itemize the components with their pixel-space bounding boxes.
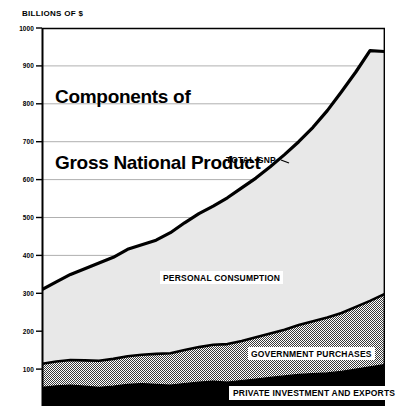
y-tick-label-400: 400: [8, 252, 34, 259]
y-tick-label-700: 700: [8, 138, 34, 145]
y-tick-label-600: 600: [8, 176, 34, 183]
y-tick-label-900: 900: [8, 62, 34, 69]
y-tick-label-200: 200: [8, 328, 34, 335]
y-tick-label-1000: 1000: [8, 25, 34, 32]
y-tick-label-500: 500: [8, 214, 34, 221]
annotation-government-purchases: GOVERNMENT PURCHASES: [248, 347, 375, 360]
annotation-total-gnp: TOTAL GNP: [226, 155, 276, 165]
y-tick-label-100: 100: [8, 366, 34, 373]
y-tick-label-800: 800: [8, 100, 34, 107]
annotation-personal-consumption: PERSONAL CONSUMPTION: [160, 271, 283, 284]
y-axis-unit-label: BILLIONS OF $: [22, 9, 83, 18]
chart-title-line1: Components of: [55, 86, 261, 108]
chart-title: Components of Gross National Product: [55, 42, 261, 218]
annotation-private-investment: PRIVATE INVESTMENT AND EXPORTS: [229, 386, 399, 400]
gnp-area-chart: BILLIONS OF $ 10009008007006005004003002…: [0, 0, 399, 406]
y-tick-label-300: 300: [8, 290, 34, 297]
